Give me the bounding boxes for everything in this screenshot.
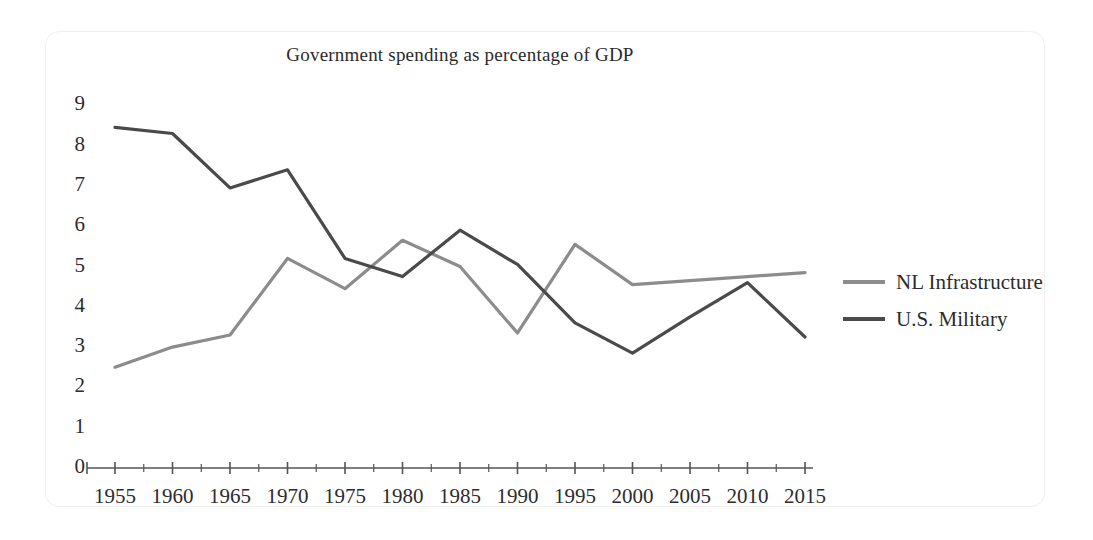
y-axis-tick-label: 2 bbox=[55, 373, 85, 398]
y-axis-tick-label: 5 bbox=[55, 253, 85, 278]
chart-figure: Government spending as percentage of GDP… bbox=[0, 0, 1093, 540]
legend-item-label: U.S. Military bbox=[896, 307, 1007, 332]
y-axis-tick-label: 1 bbox=[55, 414, 85, 439]
series-line-0 bbox=[115, 240, 805, 367]
y-axis-tick-label: 9 bbox=[55, 91, 85, 116]
series-line-1 bbox=[115, 127, 805, 353]
y-axis-tick-label: 3 bbox=[55, 333, 85, 358]
y-axis-tick-label: 0 bbox=[55, 454, 85, 479]
y-axis-tick-label: 6 bbox=[55, 212, 85, 237]
y-axis-tick-label: 7 bbox=[55, 172, 85, 197]
legend-swatch-icon bbox=[843, 280, 885, 284]
legend-item-0[interactable]: NL Infrastructure bbox=[843, 267, 1043, 297]
legend-item-1[interactable]: U.S. Military bbox=[843, 304, 1007, 334]
legend-swatch-icon bbox=[843, 317, 885, 321]
y-axis-tick-label: 8 bbox=[55, 132, 85, 157]
x-axis-tick-label: 2015 bbox=[770, 484, 840, 509]
legend-item-label: NL Infrastructure bbox=[896, 270, 1043, 295]
y-axis-tick-label: 4 bbox=[55, 293, 85, 318]
